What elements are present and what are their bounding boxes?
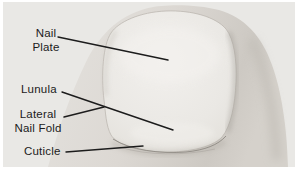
nail-plate-label-line1: Nail (24, 27, 68, 41)
nail-highlight (120, 27, 220, 83)
lateral-nail-fold-label-line1: Lateral (10, 108, 66, 122)
cuticle-label-text: Cuticle (24, 145, 61, 159)
lateral-nail-fold-label: Lateral Nail Fold (10, 108, 66, 135)
lateral-nail-fold-label-line2: Nail Fold (10, 122, 66, 136)
nail-plate-label-line2: Plate (24, 41, 68, 55)
nail-anatomy-figure: Nail Plate Lunula Lateral Nail Fold Cuti… (0, 0, 300, 175)
lunula-label-text: Lunula (21, 83, 57, 97)
lunula-highlight (130, 122, 214, 144)
nail-plate-label: Nail Plate (24, 27, 68, 54)
cuticle-label: Cuticle (24, 145, 61, 159)
lunula-label: Lunula (21, 83, 57, 97)
